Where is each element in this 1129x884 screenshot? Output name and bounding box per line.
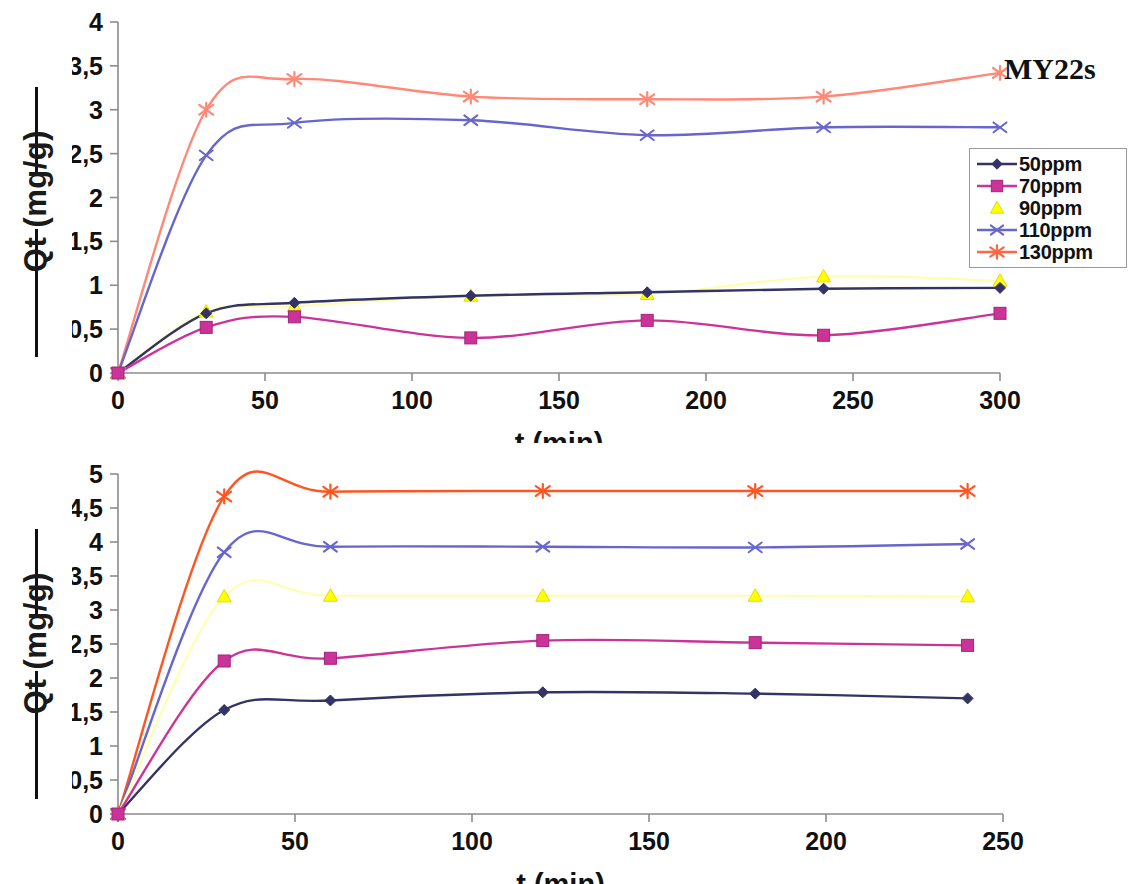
x-tick-label: 50 [251, 386, 279, 414]
y-axis-title: Qt (mg/g) [18, 571, 54, 713]
plot-area-sa01: 00,511,522,533,544,55050100150200250t (m… [72, 443, 1129, 884]
y-tick-label: 3,5 [72, 52, 103, 80]
series-90ppm [118, 276, 1000, 373]
y-tick-label: 2,5 [72, 140, 103, 168]
y-tick-label: 3,5 [72, 562, 103, 590]
x-tick-label: 150 [628, 827, 670, 855]
x-tick-label: 250 [832, 386, 874, 414]
series-markers-130ppm [111, 66, 1007, 380]
x-tick-label: 0 [111, 386, 125, 414]
y-tick-label: 4 [89, 528, 103, 556]
x-tick-label: 200 [805, 827, 847, 855]
y-tick-label: 2,5 [72, 630, 103, 658]
legend-item-130ppm[interactable]: 130ppm [975, 241, 1119, 263]
legend-label-50ppm: 50ppm [1019, 153, 1082, 176]
legend-item-70ppm[interactable]: 70ppm [975, 175, 1119, 197]
y-tick-label: 3 [89, 596, 103, 624]
y-tick-label: 2 [89, 184, 103, 212]
series-110ppm [118, 531, 968, 814]
y-tick-label: 0,5 [72, 766, 103, 794]
legend-label-130ppm: 130ppm [1019, 241, 1093, 264]
series-130ppm [118, 73, 1000, 373]
y-tick-label: 1,5 [72, 698, 103, 726]
legend-item-90ppm[interactable]: 90ppm [975, 197, 1119, 219]
y-tick-label: 1,5 [72, 227, 103, 255]
legend-item-110ppm[interactable]: 110ppm [975, 219, 1119, 241]
legend-item-50ppm[interactable]: 50ppm [975, 153, 1119, 175]
series-70ppm [118, 313, 1000, 373]
x-tick-label: 100 [391, 386, 433, 414]
legend-marker-asterisk-icon [975, 242, 1019, 262]
y-tick-label: 3 [89, 96, 103, 124]
y-tick-label: 5 [89, 460, 103, 488]
x-tick-label: 100 [451, 827, 493, 855]
legend-marker-square-icon [975, 176, 1019, 196]
y-tick-label: 0 [89, 359, 103, 387]
y-tick-label: 4 [89, 8, 103, 36]
y-tick-label: 1 [89, 271, 103, 299]
x-axis-title: t (min) [515, 427, 604, 443]
series-70ppm [118, 640, 968, 814]
series-markers-110ppm [112, 539, 975, 819]
chart-panel-sa01: Qt (mg/g) 00,511,522,533,544,55050100150… [0, 443, 1129, 884]
line-chart-sa01: 00,511,522,533,544,55050100150200250t (m… [72, 443, 1129, 884]
series-markers-110ppm [112, 115, 1007, 377]
legend-my22s: 50ppm 70ppm 90ppm 110ppm 130ppm [969, 148, 1127, 268]
series-50ppm [118, 692, 968, 814]
series-110ppm [118, 119, 1000, 373]
chart-panel-my22s: Qt (mg/g) 00,511,522,533,540501001502002… [0, 0, 1129, 443]
series-markers-50ppm [113, 687, 974, 820]
x-axis-title: t (min) [516, 868, 605, 884]
legend-label-110ppm: 110ppm [1019, 219, 1092, 242]
x-tick-label: 250 [982, 827, 1024, 855]
x-tick-label: 200 [685, 386, 727, 414]
y-axis-title-block-bottom: Qt (mg/g) [0, 443, 72, 884]
y-tick-label: 0 [89, 800, 103, 828]
x-tick-label: 0 [111, 827, 125, 855]
x-tick-label: 50 [281, 827, 309, 855]
y-axis-title: Qt (mg/g) [18, 129, 54, 271]
y-axis-title-block-top: Qt (mg/g) [0, 0, 72, 443]
legend-label-90ppm: 90ppm [1019, 197, 1082, 220]
y-tick-label: 0,5 [72, 315, 103, 343]
x-tick-label: 150 [538, 386, 580, 414]
x-tick-label: 300 [979, 386, 1021, 414]
chart-title-my22s: MY22s [1004, 52, 1096, 86]
series-markers-90ppm [111, 269, 1007, 378]
legend-marker-x-icon [975, 220, 1019, 240]
legend-label-70ppm: 70ppm [1019, 175, 1082, 198]
legend-marker-diamond-icon [975, 154, 1019, 174]
y-tick-label: 1 [89, 732, 103, 760]
series-markers-70ppm [112, 635, 974, 820]
y-tick-label: 2 [89, 664, 103, 692]
y-tick-label: 4,5 [72, 494, 103, 522]
legend-marker-triangle-icon [975, 198, 1019, 218]
